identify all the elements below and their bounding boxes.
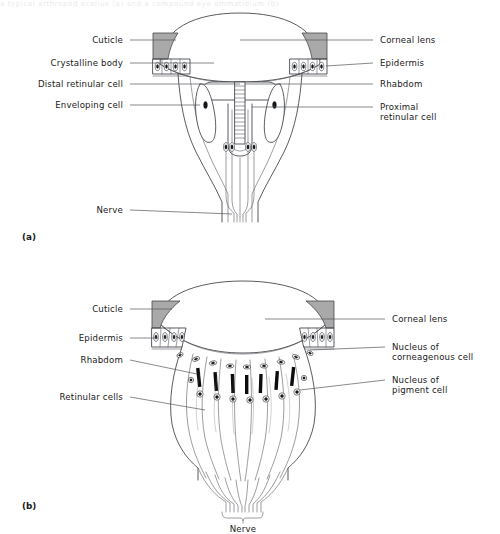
- leader-nucleus-pigment: [300, 380, 385, 390]
- label-epidermis-a: Epidermis: [380, 58, 425, 68]
- label-distal-retinular-cell-a: Distal retinular cell: [38, 79, 123, 89]
- panel-tag-b: (b): [22, 501, 36, 511]
- label-proximal-retinular-cell-a-line2: retinular cell: [380, 112, 437, 122]
- label-epidermis-b: Epidermis: [79, 333, 124, 343]
- nerve-axons-b: [198, 468, 288, 512]
- label-corneal-lens-a: Corneal lens: [380, 35, 436, 45]
- label-nucleus-corneagenous-line2: corneagenous cell: [392, 352, 473, 362]
- leader-rhabdom-b: [130, 360, 197, 374]
- label-cuticle-b: Cuticle: [92, 304, 123, 314]
- label-enveloping-cell-a: Enveloping cell: [55, 100, 123, 110]
- leader-retinular-cells-b: [130, 397, 205, 410]
- corneal-lens-shape-a: [160, 13, 320, 82]
- figure-root: a typical arthropod ocellus (a) and a co…: [0, 0, 500, 534]
- nerve-bracket-b: [222, 512, 263, 521]
- retinular-cell-columns-b: [186, 354, 299, 481]
- label-nucleus-pigment-line2: pigment cell: [392, 385, 447, 395]
- label-rhabdom-a: Rhabdom: [380, 79, 422, 89]
- nerve-axons-a: [226, 152, 254, 222]
- panel-b: Cuticle Epidermis Rhabdom Retinular cell…: [22, 281, 473, 534]
- leader-nerve-a: [130, 210, 232, 214]
- eye-structure-diagram: Cuticle Crystalline body Distal retinula…: [0, 0, 500, 534]
- label-nerve-b: Nerve: [230, 524, 257, 534]
- eyecup-wall-left-b: [171, 347, 198, 480]
- corneal-lens-shape-b: [158, 281, 328, 353]
- label-retinular-cells-b: Retinular cells: [60, 392, 124, 402]
- label-rhabdom-b: Rhabdom: [81, 355, 123, 365]
- rhabdom-bars-b: [196, 367, 295, 394]
- label-nucleus-corneagenous-line1: Nucleus of: [392, 342, 440, 352]
- rhabdom-a: [235, 82, 245, 144]
- panel-tag-a: (a): [22, 232, 36, 242]
- leader-nucleus-corneagenous: [310, 347, 385, 350]
- label-nerve-a: Nerve: [96, 205, 123, 215]
- label-cuticle-a: Cuticle: [92, 35, 123, 45]
- leader-epidermis-a: [326, 63, 373, 66]
- panel-a: Cuticle Crystalline body Distal retinula…: [22, 13, 437, 242]
- label-crystalline-body-a: Crystalline body: [51, 58, 124, 68]
- label-corneal-lens-b: Corneal lens: [392, 314, 448, 324]
- label-proximal-retinular-cell-a-line1: Proximal: [380, 102, 418, 112]
- label-nucleus-pigment-line1: Nucleus of: [392, 375, 440, 385]
